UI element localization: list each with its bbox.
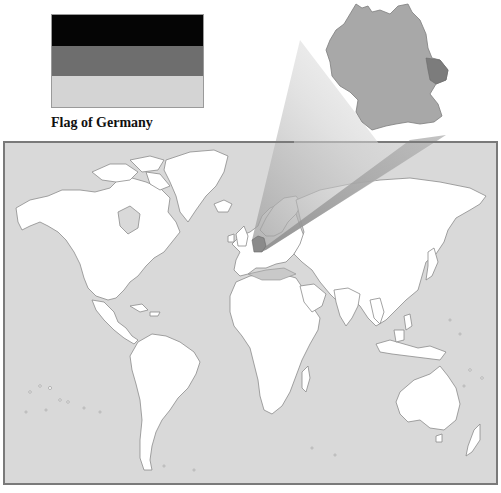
germany-highlight-on-map xyxy=(252,236,266,252)
world-map xyxy=(0,0,501,493)
